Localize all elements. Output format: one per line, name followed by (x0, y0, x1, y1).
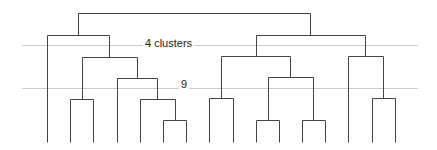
cut-label-4-clusters: 4 clusters (143, 37, 194, 49)
cut-label-9: 9 (179, 78, 189, 90)
dendrogram-tree (48, 14, 396, 143)
cut-lines (23, 46, 418, 89)
dendrogram (0, 0, 437, 150)
